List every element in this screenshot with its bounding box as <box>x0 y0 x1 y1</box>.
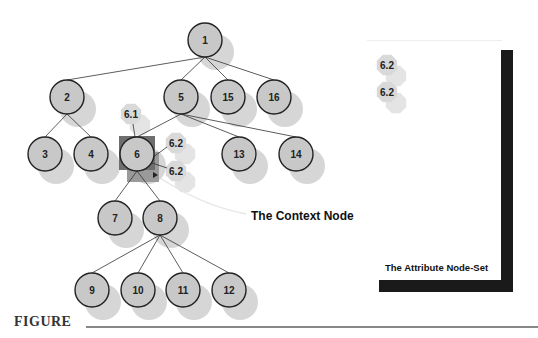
svg-text:9: 9 <box>89 285 95 296</box>
tree-node-9: 9 <box>75 273 109 307</box>
attribute-set-top-rule <box>367 40 502 41</box>
svg-text:3: 3 <box>42 149 48 160</box>
figure-caption-label: FIGURE <box>14 314 71 330</box>
attribute-set-node: 6.2 <box>377 82 406 113</box>
tree-edge <box>160 235 229 273</box>
tree-node-6: 6 <box>120 137 154 171</box>
tree-node-12: 12 <box>212 273 246 307</box>
tree-node-13: 13 <box>222 137 256 171</box>
attribute-node: 6.2 <box>166 161 195 192</box>
attribute-node: 6.2 <box>166 133 195 164</box>
attribute-set-frame-vertical <box>501 50 513 292</box>
tree-node-3: 3 <box>28 137 62 171</box>
tree-edge <box>115 171 137 201</box>
tree-node-2: 2 <box>50 80 84 114</box>
figure-caption-rule <box>86 326 538 328</box>
svg-text:13: 13 <box>233 149 245 160</box>
tree-edge <box>45 114 67 137</box>
svg-text:6: 6 <box>134 149 140 160</box>
tree-node-16: 16 <box>257 80 291 114</box>
tree-node-10: 10 <box>121 273 155 307</box>
svg-text:6.2: 6.2 <box>169 166 183 177</box>
tree-node-15: 15 <box>211 80 245 114</box>
svg-text:11: 11 <box>178 285 189 296</box>
svg-text:7: 7 <box>112 213 118 224</box>
svg-text:10: 10 <box>132 285 144 296</box>
svg-text:8: 8 <box>157 213 163 224</box>
svg-text:14: 14 <box>290 149 302 160</box>
svg-text:16: 16 <box>268 92 280 103</box>
svg-text:6.2: 6.2 <box>380 87 394 98</box>
attribute-set-frame-horizontal <box>379 280 513 292</box>
attribute-set-node: 6.2 <box>377 55 406 86</box>
tree-node-1: 1 <box>188 23 222 57</box>
attribute-node: 6.1 <box>121 104 150 135</box>
tree-node-7: 7 <box>98 201 132 235</box>
context-node-label: The Context Node <box>251 209 354 223</box>
svg-text:1: 1 <box>202 35 208 46</box>
tree-node-5: 5 <box>164 80 198 114</box>
tree-node-14: 14 <box>279 137 313 171</box>
tree-node-4: 4 <box>74 137 108 171</box>
svg-text:6.1: 6.1 <box>124 109 138 120</box>
tree-node-8: 8 <box>143 201 177 235</box>
attribute-node-set-label: The Attribute Node-Set <box>385 262 488 273</box>
svg-text:5: 5 <box>178 92 184 103</box>
svg-text:6.2: 6.2 <box>169 138 183 149</box>
svg-text:15: 15 <box>222 92 234 103</box>
svg-text:12: 12 <box>223 285 235 296</box>
svg-text:4: 4 <box>88 149 94 160</box>
tree-node-11: 11 <box>166 273 200 307</box>
svg-text:6.2: 6.2 <box>380 60 394 71</box>
svg-text:2: 2 <box>64 92 70 103</box>
